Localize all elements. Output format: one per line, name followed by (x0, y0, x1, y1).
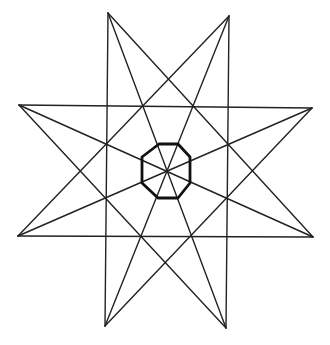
star-line-left-top-to-right-top (19, 105, 312, 108)
star-line-right-bottom-to-left-top (19, 105, 313, 237)
star-line-right-top-to-bottom-left (105, 108, 312, 326)
star-line-top-left-to-right-bottom (108, 13, 313, 237)
star-line-bottom-left-to-top-left (105, 13, 108, 326)
star-line-left-bottom-to-top-right (18, 16, 229, 236)
star-diagram (0, 0, 330, 345)
star-line-bottom-right-to-left-top (19, 105, 226, 328)
star-lines (18, 13, 313, 328)
star-line-top-right-to-bottom-right (226, 16, 229, 328)
star-line-right-bottom-to-left-bottom (18, 236, 313, 237)
